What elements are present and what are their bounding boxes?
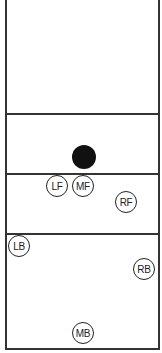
player-middle-back: MB [72,322,94,344]
player-label: RF [120,197,133,208]
ball-icon [72,145,96,169]
player-label: MB [76,328,90,339]
opponent-attack-line [5,113,160,115]
volleyball-court: LF MF RF LB RB MB [0,0,162,353]
court-right-sideline [158,0,160,350]
end-line [5,348,160,350]
player-label: RB [137,264,150,275]
player-left-front: LF [46,175,68,197]
player-left-back: LB [8,235,30,257]
player-label: MF [76,181,90,192]
player-right-back: RB [133,258,155,280]
court-left-sideline [5,0,7,350]
player-middle-front: MF [72,175,94,197]
player-label: LB [13,241,25,252]
player-right-front: RF [115,191,137,213]
player-label: LF [51,181,62,192]
attack-line [5,233,160,235]
